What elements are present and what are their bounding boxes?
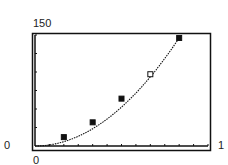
filled-square-marker: [119, 96, 124, 101]
open-square-marker: [148, 72, 153, 77]
filled-square-marker: [90, 120, 95, 125]
filled-square-marker: [61, 135, 66, 140]
plot-frame: [33, 34, 211, 151]
fit-curve: [35, 38, 179, 146]
data-points: [61, 35, 181, 139]
filled-square-marker: [177, 35, 182, 40]
axes: [35, 35, 208, 146]
calculator-plot: [0, 0, 228, 165]
